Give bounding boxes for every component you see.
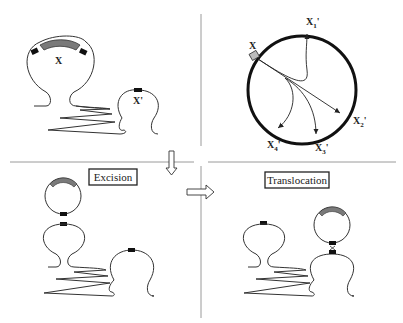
excision-label: Excision <box>94 171 133 183</box>
target-site-marker-after <box>128 248 135 252</box>
folded-dna <box>48 106 126 134</box>
panel-bottom-left: Excision <box>43 169 154 296</box>
source-label: X <box>249 40 257 51</box>
inserted-element-segment <box>319 207 346 216</box>
panel-top-right: X X1' X2' X3' X4' <box>248 16 367 156</box>
excised-site-marker <box>60 212 67 216</box>
target-locus-label: X' <box>133 95 143 106</box>
arrow-to-x4 <box>278 78 293 128</box>
donor-loop-right-panel <box>243 224 314 296</box>
panel-bottom-right: Translocation <box>243 172 354 296</box>
donor-loop-after <box>43 224 114 296</box>
svg-text:X1': X1' <box>306 16 320 30</box>
donor-locus-label: X <box>55 55 63 66</box>
label-x2: X2' <box>353 115 367 129</box>
target-loop-after <box>109 250 154 296</box>
panel-top-left: X X' <box>27 36 158 134</box>
label-x3: X3' <box>315 142 329 156</box>
svg-text:X3': X3' <box>315 142 329 156</box>
svg-text:X2': X2' <box>353 115 367 129</box>
diagram-canvas: X X' X X1' X2' X3' X4' Excision <box>0 0 403 323</box>
label-x4: X4' <box>267 139 281 153</box>
arrow-to-x3 <box>285 78 316 134</box>
translocation-label: Translocation <box>267 174 328 186</box>
site-marker-right <box>79 48 87 55</box>
junction-connector <box>330 246 335 250</box>
target-loop-right-panel <box>309 254 354 296</box>
label-x1: X1' <box>306 16 320 30</box>
down-arrow <box>166 151 177 175</box>
excised-element-segment <box>50 178 77 187</box>
mobile-element-segment <box>40 40 80 50</box>
nucleus-circle <box>248 36 356 144</box>
arrow-to-x2 <box>258 59 340 113</box>
svg-text:X4': X4' <box>267 139 281 153</box>
inserted-site-marker-bottom <box>329 250 336 254</box>
inserted-site-marker-top <box>329 241 336 245</box>
target-site-marker <box>134 88 142 92</box>
